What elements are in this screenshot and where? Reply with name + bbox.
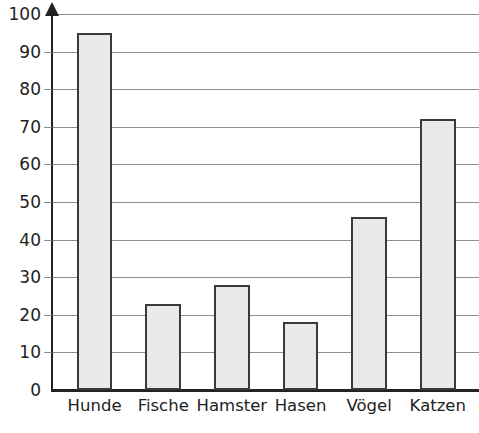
y-axis-tick [44,202,52,203]
x-axis-tick-label: Katzen [410,398,466,415]
x-axis-tick-label: Hasen [275,398,327,415]
gridline [52,202,479,203]
gridline [52,89,479,90]
bar-vögel [351,217,387,390]
x-axis-tick-label: Vögel [347,398,392,415]
gridline [52,164,479,165]
gridline [52,240,479,241]
y-axis-line [51,14,53,392]
y-axis-tick [44,164,52,165]
bar-chart: 0102030405060708090100 HundeFischeHamste… [0,0,479,433]
bar-hasen [283,322,319,390]
y-axis-tick [44,52,52,53]
y-axis-tick-label: 30 [1,269,41,286]
y-axis-tick [44,277,52,278]
bar-hamster [214,285,250,390]
y-axis-tick [44,352,52,353]
y-axis-tick [44,89,52,90]
y-axis-tick-label: 10 [1,344,41,361]
bar-fische [145,304,181,390]
y-axis-tick-label: 50 [1,194,41,211]
y-axis-tick-label: 20 [1,306,41,323]
y-axis-arrow-icon [45,2,59,16]
y-axis-tick-label: 0 [1,382,41,399]
x-axis-line [51,389,479,391]
y-axis-tick-label: 90 [1,43,41,60]
y-axis-tick [44,240,52,241]
y-axis-tick [44,315,52,316]
x-axis-tick-label: Fische [138,398,189,415]
plot-area [52,14,479,390]
bar-katzen [420,119,456,390]
y-axis-tick-label: 60 [1,156,41,173]
gridline [52,127,479,128]
gridline [52,315,479,316]
y-axis-tick [44,127,52,128]
x-axis-tick-label: Hunde [68,398,122,415]
x-axis-tick-label: Hamster [197,398,268,415]
gridline [52,352,479,353]
bar-hunde [77,33,113,390]
y-axis-tick-label: 100 [1,6,41,23]
gridline [52,277,479,278]
y-axis-tick-label: 80 [1,81,41,98]
gridline [52,52,479,53]
y-axis-tick-labels: 0102030405060708090100 [0,0,41,433]
gridline [52,14,479,15]
y-axis-tick-label: 70 [1,118,41,135]
y-axis-tick-label: 40 [1,231,41,248]
